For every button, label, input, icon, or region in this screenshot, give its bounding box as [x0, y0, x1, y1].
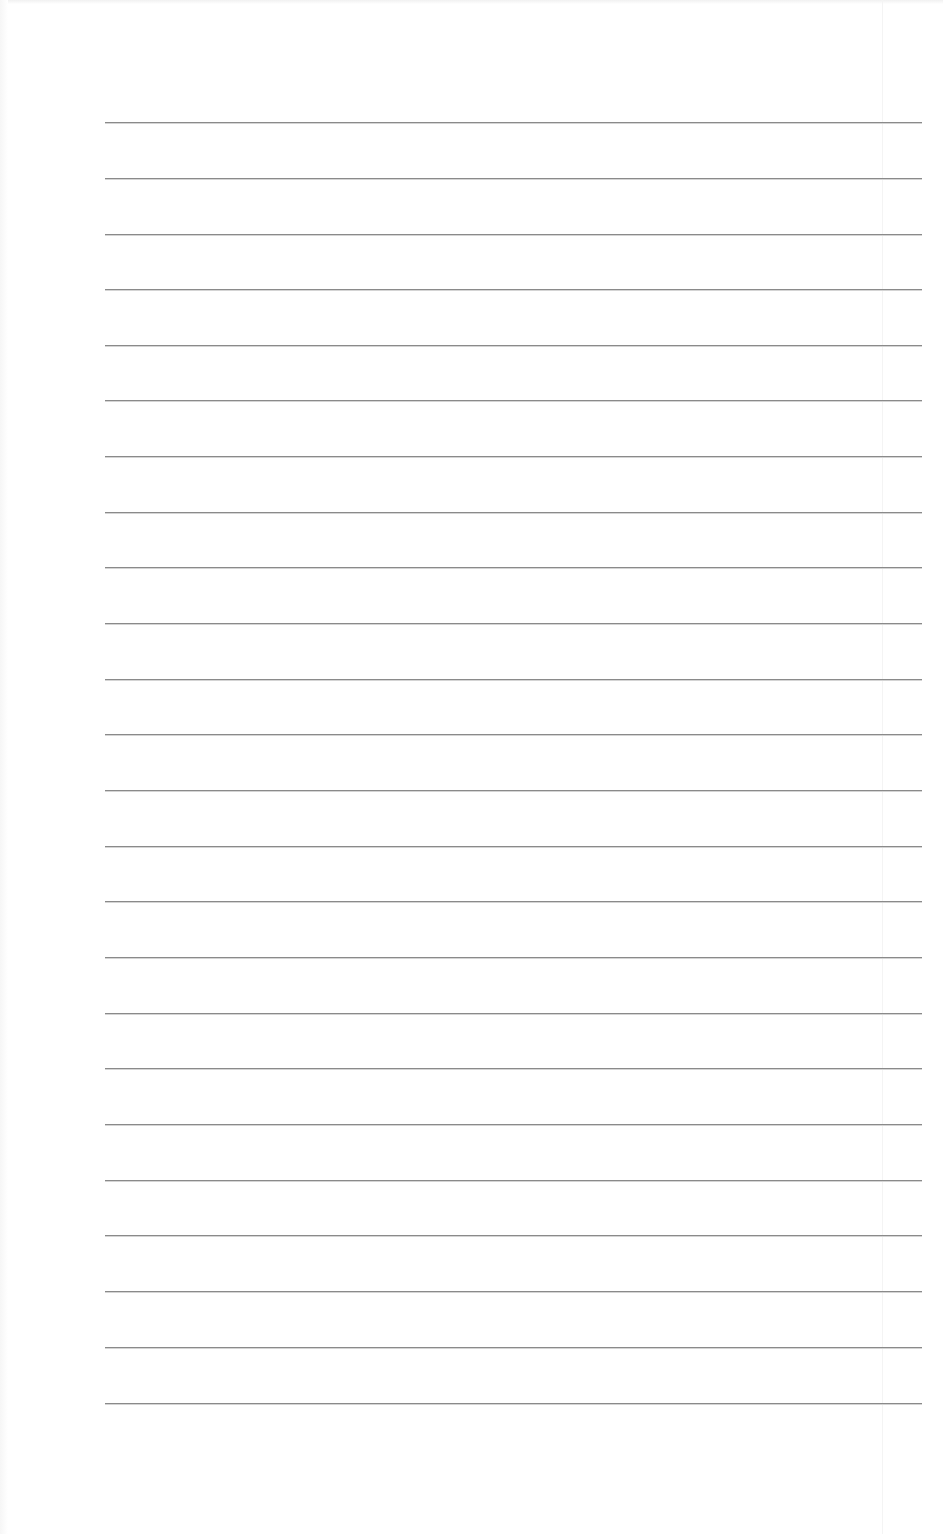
ruled-line [105, 345, 922, 347]
ruled-line [105, 1403, 922, 1405]
ruled-line [105, 122, 922, 124]
ruled-line [105, 289, 922, 291]
ruled-line [105, 178, 922, 180]
right-margin-line [882, 0, 883, 1534]
ruled-line [105, 234, 922, 236]
ruled-line [105, 567, 922, 569]
ruled-line [105, 1013, 922, 1015]
ruled-line [105, 1180, 922, 1182]
ruled-line [105, 1124, 922, 1126]
ruled-line [105, 957, 922, 959]
ruled-line [105, 1347, 922, 1349]
ruled-line [105, 1235, 922, 1237]
ruled-line [105, 901, 922, 903]
ruled-line [105, 400, 922, 402]
ruled-line [105, 790, 922, 792]
ruled-line [105, 1291, 922, 1293]
ruled-line [105, 456, 922, 458]
ruled-line [105, 623, 922, 625]
ruled-line [105, 512, 922, 514]
ruled-line [105, 734, 922, 736]
page-left-edge [0, 0, 8, 1534]
ruled-line [105, 846, 922, 848]
ruled-line [105, 1068, 922, 1070]
page-top-edge [0, 0, 943, 4]
ruled-line [105, 679, 922, 681]
